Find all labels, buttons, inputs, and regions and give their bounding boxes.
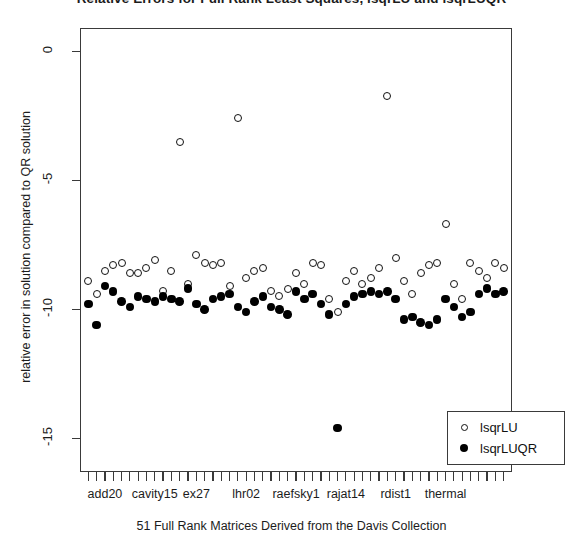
data-point bbox=[458, 313, 467, 322]
x-tick-mark bbox=[204, 472, 205, 481]
y-tick-label: -5 bbox=[40, 162, 55, 196]
data-point bbox=[358, 280, 366, 288]
y-tick-mark bbox=[72, 438, 80, 439]
data-point bbox=[192, 300, 201, 309]
data-point bbox=[192, 251, 200, 259]
data-point bbox=[392, 254, 400, 262]
data-point bbox=[217, 292, 226, 301]
data-point bbox=[433, 259, 441, 267]
x-tick-label: rdist1 bbox=[380, 487, 411, 501]
x-axis-title: 51 Full Rank Matrices Derived from the D… bbox=[0, 519, 583, 533]
x-tick-mark bbox=[403, 472, 404, 481]
data-point bbox=[126, 269, 134, 277]
data-point bbox=[317, 261, 325, 269]
legend-label: lsqrLUQR bbox=[480, 441, 537, 456]
data-point bbox=[267, 287, 275, 295]
x-tick-mark bbox=[113, 472, 114, 481]
data-point bbox=[275, 305, 284, 314]
data-point bbox=[300, 295, 309, 304]
x-tick-mark bbox=[462, 472, 463, 481]
data-point bbox=[201, 259, 209, 267]
data-point bbox=[209, 261, 217, 269]
data-point bbox=[151, 256, 159, 264]
data-point bbox=[475, 290, 484, 299]
data-point bbox=[234, 303, 243, 312]
data-point bbox=[176, 138, 184, 146]
y-tick-label: -15 bbox=[40, 420, 55, 454]
chart-figure: Relative Errors for Full Rank Least Squa… bbox=[0, 0, 583, 551]
plot-points-layer bbox=[80, 28, 512, 472]
data-point bbox=[175, 297, 184, 306]
legend-label: lsqrLU bbox=[480, 420, 518, 435]
chart-legend: lsqrLU lsqrLUQR bbox=[447, 411, 565, 465]
data-point bbox=[200, 305, 209, 314]
x-tick-mark bbox=[221, 472, 222, 481]
data-point bbox=[217, 259, 225, 267]
data-point bbox=[375, 290, 384, 299]
filled-circle-icon bbox=[457, 444, 471, 452]
x-tick-mark bbox=[254, 472, 255, 481]
data-point bbox=[483, 274, 491, 282]
data-point bbox=[425, 261, 433, 269]
data-point bbox=[450, 303, 459, 312]
x-tick-mark bbox=[88, 472, 89, 481]
x-tick-mark bbox=[154, 472, 155, 481]
data-point bbox=[325, 310, 334, 319]
data-point bbox=[142, 264, 150, 272]
x-tick-mark bbox=[470, 472, 471, 481]
x-tick-mark bbox=[320, 472, 321, 481]
x-tick-mark bbox=[412, 472, 413, 481]
data-point bbox=[350, 292, 359, 301]
data-point bbox=[342, 300, 351, 309]
x-tick-mark bbox=[445, 472, 446, 481]
data-point bbox=[142, 295, 151, 304]
data-point bbox=[367, 287, 376, 296]
x-tick-mark bbox=[503, 472, 504, 481]
data-point bbox=[250, 267, 258, 275]
x-tick-mark bbox=[304, 472, 305, 481]
data-point bbox=[242, 274, 250, 282]
x-tick-mark bbox=[287, 472, 288, 481]
x-tick-mark bbox=[428, 472, 429, 481]
x-tick-mark bbox=[187, 472, 188, 481]
data-point bbox=[292, 287, 301, 296]
x-tick-mark bbox=[262, 472, 263, 481]
data-point bbox=[491, 259, 499, 267]
x-tick-mark bbox=[486, 472, 487, 481]
x-tick-mark bbox=[453, 472, 454, 481]
x-tick-mark bbox=[354, 472, 355, 481]
x-tick-mark bbox=[104, 472, 105, 481]
x-tick-mark bbox=[478, 472, 479, 481]
x-tick-label: thermal bbox=[425, 487, 467, 501]
x-tick-mark bbox=[212, 472, 213, 481]
x-tick-mark bbox=[495, 472, 496, 481]
data-point bbox=[284, 285, 292, 293]
open-circle-icon bbox=[457, 424, 471, 431]
x-tick-mark bbox=[370, 472, 371, 481]
data-point bbox=[184, 284, 193, 293]
x-tick-mark bbox=[246, 472, 247, 481]
data-point bbox=[391, 295, 400, 304]
data-point bbox=[126, 303, 135, 312]
data-point bbox=[159, 292, 168, 301]
x-tick-mark bbox=[345, 472, 346, 481]
data-point bbox=[333, 424, 342, 433]
data-point bbox=[358, 290, 367, 299]
data-point bbox=[375, 264, 383, 272]
data-point bbox=[466, 308, 475, 317]
data-point bbox=[275, 292, 283, 300]
x-tick-mark bbox=[96, 472, 97, 481]
data-point bbox=[300, 280, 308, 288]
data-point bbox=[475, 267, 483, 275]
data-point bbox=[317, 300, 326, 309]
y-tick-label: 0 bbox=[40, 33, 55, 67]
data-point bbox=[259, 264, 267, 272]
data-point bbox=[92, 321, 101, 330]
legend-entry-lsqrluqr: lsqrLUQR bbox=[457, 438, 537, 458]
data-point bbox=[433, 315, 442, 324]
data-point bbox=[499, 287, 508, 296]
data-point bbox=[309, 259, 317, 267]
x-tick-mark bbox=[337, 472, 338, 481]
data-point bbox=[458, 295, 466, 303]
data-point bbox=[416, 318, 425, 327]
